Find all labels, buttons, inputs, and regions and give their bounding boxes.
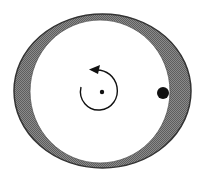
diagram-canvas [0, 0, 204, 176]
orbit-diagram [0, 0, 204, 176]
orbiting-body [157, 87, 169, 99]
center-point [100, 90, 104, 94]
